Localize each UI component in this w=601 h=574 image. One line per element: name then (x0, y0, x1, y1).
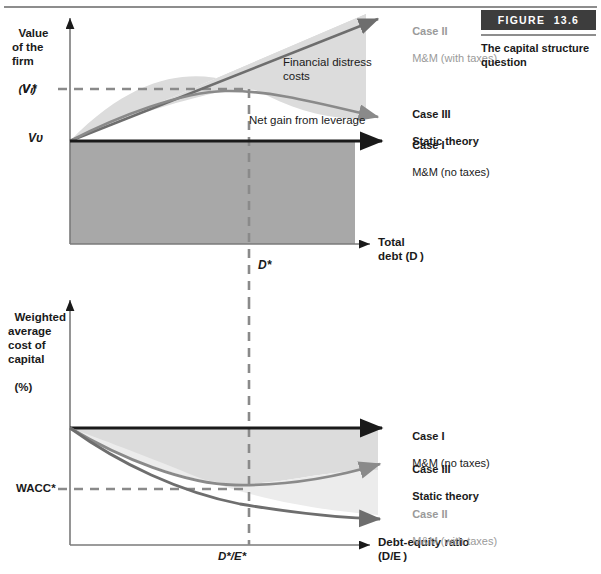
figure-badge-label: FIGURE (498, 14, 545, 26)
annotation-net-gain-from-leverage: Net gain from leverage (249, 113, 365, 127)
figure-badge-number: 13.6 (554, 14, 580, 26)
bottom-chart-legend-case2-title: Case II (412, 508, 447, 520)
bottom-chart-legend-case2: Case II M&M (with taxes) (406, 495, 497, 549)
top-chart-y-axis-label-lines: Valueof thefirm (12, 27, 48, 67)
bottom-chart-legend-case3-title: Case III (412, 463, 451, 475)
bottom-chart-y-axis-label-symbol: (%) (14, 381, 32, 393)
bottom-chart-legend-case2-sub: M&M (with taxes) (412, 535, 497, 547)
top-chart-legend-case1: Case I M&M (no taxes) (406, 126, 490, 180)
capital-structure-figure (0, 0, 601, 574)
top-chart-legend-case3-title: Case III (412, 108, 451, 120)
figure-badge-rule (481, 34, 596, 36)
top-chart-x-axis-label: Totaldebt (D ) (378, 235, 424, 263)
bottom-chart-y-axis-label: Weightedaveragecost ofcapital (%) (8, 296, 66, 394)
bottom-chart-y-tick-wacc: WACC* (16, 481, 56, 495)
bottom-chart-legend-case1-title: Case I (412, 430, 444, 442)
figure-badge-text: FIGURE 13.6 (481, 10, 596, 30)
annotation-financial-distress-costs: Financial distress costs (283, 55, 372, 83)
page-top-rule (4, 6, 597, 8)
top-chart-dark-region (70, 141, 355, 244)
top-chart-y-tick-vu: Vᴜ (28, 131, 43, 146)
bottom-chart-x-tick-destar: D*/E* (218, 549, 246, 563)
top-chart-legend-case1-title: Case I (412, 139, 444, 151)
figure-badge: FIGURE 13.6 (481, 10, 596, 30)
top-chart-legend-case1-sub: M&M (no taxes) (412, 166, 490, 178)
figure-caption: The capital structure question (481, 41, 599, 70)
top-chart-legend-case2-title: Case II (412, 25, 447, 37)
bottom-chart-plot (58, 300, 382, 545)
top-chart-x-tick-dstar: D* (258, 258, 271, 273)
bottom-chart-y-axis-label-lines: Weightedaveragecost ofcapital (8, 311, 66, 365)
top-chart-y-tick-vl: Vₗ* (22, 82, 37, 97)
